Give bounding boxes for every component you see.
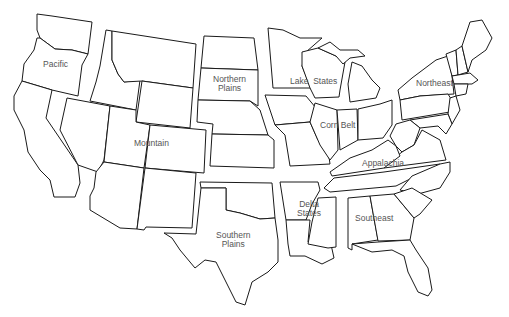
state-connecticut [454, 84, 468, 96]
state-florida [352, 240, 432, 296]
label-northern-plains-line2: Plains [213, 84, 246, 93]
label-appalachia: Appalachia [362, 159, 404, 168]
label-southern-plains-line2: Plains [216, 240, 251, 249]
us-farm-regions-map: Pacific Mountain Northern Plains Souther… [0, 0, 509, 317]
state-kansas [210, 134, 274, 168]
region-northern-plains [197, 36, 274, 168]
state-new-mexico [137, 168, 196, 230]
label-southern-plains: Southern Plains [216, 231, 251, 249]
label-mountain: Mountain [134, 139, 169, 148]
label-delta-states-line2: States [297, 209, 321, 218]
label-corn-belt: Corn Belt [320, 121, 355, 130]
state-maine [462, 20, 492, 72]
state-arizona [90, 162, 144, 229]
region-northeast [398, 20, 492, 134]
state-michigan-lower [348, 62, 380, 102]
label-pacific: Pacific [43, 60, 68, 69]
state-wyoming [136, 81, 193, 128]
label-northeast: Northeast [416, 79, 453, 88]
state-ohio [358, 100, 392, 140]
label-delta-states: Delta States [297, 200, 321, 218]
state-north-dakota [201, 36, 258, 70]
map-outline-svg [0, 0, 509, 317]
state-colorado [145, 125, 206, 173]
region-lake-states [268, 28, 380, 102]
state-montana [112, 31, 196, 88]
label-northern-plains: Northern Plains [213, 75, 246, 93]
region-southeast [348, 188, 432, 296]
region-delta-states [280, 182, 336, 264]
label-southeast: Southeast [355, 214, 393, 223]
state-iowa [265, 95, 316, 125]
label-lake-states: Lake States [290, 77, 337, 86]
